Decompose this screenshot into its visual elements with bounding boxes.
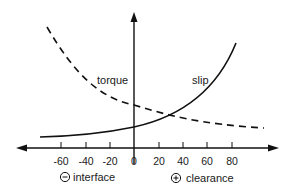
x-axis: -60 -40 -20 0 20 40 60 80 bbox=[16, 142, 279, 167]
x-axis-right-arrow-icon bbox=[268, 145, 279, 152]
clearance-label: clearance bbox=[186, 172, 234, 184]
slip-label: slip bbox=[192, 74, 209, 86]
interface-annotation: interface bbox=[60, 171, 115, 183]
tick-label: -60 bbox=[53, 155, 68, 167]
tick-label: 0 bbox=[131, 155, 137, 167]
x-axis-left-arrow-icon bbox=[16, 145, 27, 152]
tick-label: -20 bbox=[102, 155, 117, 167]
y-axis bbox=[131, 12, 138, 164]
tick-label: -40 bbox=[78, 155, 93, 167]
tick-label: 80 bbox=[226, 155, 238, 167]
tick-label: 40 bbox=[177, 155, 189, 167]
x-tick-labels: -60 -40 -20 0 20 40 60 80 bbox=[53, 155, 238, 167]
interface-label: interface bbox=[73, 171, 115, 183]
tick-label: 20 bbox=[153, 155, 165, 167]
torque-label: torque bbox=[97, 74, 128, 86]
chart-canvas: -60 -40 -20 0 20 40 60 80 torque slip in… bbox=[0, 0, 290, 187]
y-axis-arrow-icon bbox=[131, 12, 138, 22]
clearance-annotation: clearance bbox=[171, 172, 233, 184]
x-ticks bbox=[61, 142, 232, 148]
torque-curve bbox=[47, 27, 264, 128]
tick-label: 60 bbox=[201, 155, 213, 167]
